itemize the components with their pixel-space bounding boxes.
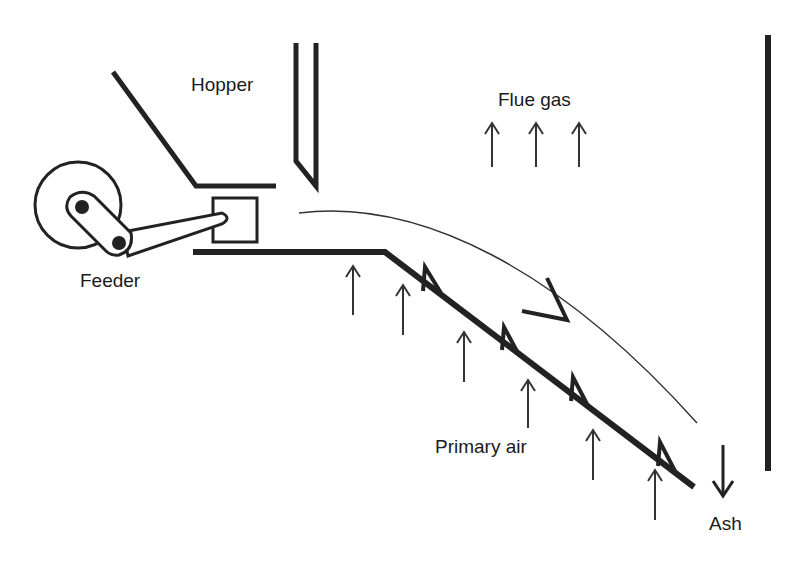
- hopper-right-wall: [296, 43, 316, 186]
- hopper-label: Hopper: [191, 74, 253, 96]
- fuel-path-curve: [299, 211, 697, 423]
- primary-air-label: Primary air: [435, 436, 527, 458]
- feeder-label: Feeder: [80, 270, 140, 292]
- ash-label: Ash: [709, 513, 742, 535]
- fuel-path-arrowhead: [522, 278, 567, 320]
- primary-air-arrows: [346, 266, 662, 520]
- flue-gas-arrows: [485, 123, 586, 167]
- flue-gas-label: Flue gas: [498, 89, 571, 111]
- ash-arrow: [713, 445, 733, 496]
